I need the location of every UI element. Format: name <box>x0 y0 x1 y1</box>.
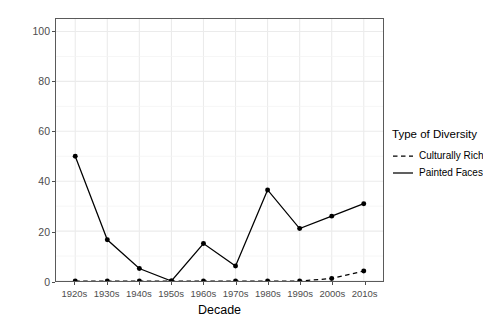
x-tick-mark <box>171 282 172 285</box>
data-point <box>233 264 238 269</box>
plot-panel <box>55 18 384 282</box>
data-point <box>265 187 270 192</box>
x-tick-label: 1920s <box>61 288 87 300</box>
legend-key-dashed <box>392 150 414 162</box>
x-tick-label: 2010s <box>352 288 378 300</box>
x-tick-mark <box>300 282 301 285</box>
x-tick-label: 1930s <box>94 288 120 300</box>
data-point <box>73 154 78 159</box>
data-point <box>137 266 142 271</box>
x-tick-mark <box>107 282 108 285</box>
y-tick-label: 20 <box>24 227 50 237</box>
data-point <box>233 279 238 281</box>
y-tick-mark <box>52 232 55 233</box>
data-point <box>329 276 334 281</box>
y-tick-label: 100 <box>24 26 50 36</box>
gridlines-minor <box>56 56 383 256</box>
y-tick-label: 80 <box>24 76 50 86</box>
x-tick-mark <box>268 282 269 285</box>
legend-item: Painted Faces <box>392 164 468 181</box>
legend-items: Culturally RichPainted Faces <box>392 147 468 181</box>
data-point <box>297 279 302 281</box>
x-tick-label: 2000s <box>319 288 345 300</box>
y-tick-mark <box>52 282 55 283</box>
legend-key-solid <box>392 167 414 179</box>
y-tick-label: 40 <box>24 176 50 186</box>
x-tick-mark <box>365 282 366 285</box>
data-point <box>105 279 110 281</box>
legend-title: Type of Diversity <box>392 128 468 140</box>
x-tick-label: 1980s <box>255 288 281 300</box>
data-series-layer <box>73 154 367 281</box>
data-point <box>73 279 78 281</box>
plot-area <box>56 19 383 281</box>
x-tick-mark <box>74 282 75 285</box>
x-axis-tick-labels: 1920s1930s1940s1950s1960s1970s1980s1990s… <box>0 286 468 302</box>
y-axis-title: Percentage of Books <box>2 0 20 54</box>
data-point <box>265 279 270 281</box>
legend-label: Culturally Rich <box>419 150 483 161</box>
data-point <box>361 269 366 274</box>
legend-label: Painted Faces <box>419 167 483 178</box>
data-point <box>329 214 334 219</box>
data-point <box>201 279 206 281</box>
legend: Type of Diversity Culturally RichPainted… <box>392 128 468 181</box>
x-tick-mark <box>203 282 204 285</box>
x-tick-mark <box>236 282 237 285</box>
y-axis-tick-labels: 020406080100 <box>20 0 50 332</box>
gridlines-major <box>56 19 383 281</box>
data-point <box>105 237 110 242</box>
series-painted-faces <box>73 154 367 281</box>
y-tick-mark <box>52 81 55 82</box>
x-tick-mark <box>139 282 140 285</box>
data-point <box>201 241 206 246</box>
data-point <box>361 201 366 206</box>
x-tick-label: 1950s <box>158 288 184 300</box>
data-point <box>297 226 302 231</box>
y-tick-mark <box>52 31 55 32</box>
y-tick-mark <box>52 181 55 182</box>
x-tick-label: 1940s <box>126 288 152 300</box>
legend-item: Culturally Rich <box>392 147 468 164</box>
x-tick-mark <box>332 282 333 285</box>
y-tick-mark <box>52 131 55 132</box>
x-axis-title: Decade <box>55 303 384 317</box>
x-tick-label: 1970s <box>223 288 249 300</box>
x-tick-label: 1990s <box>287 288 313 300</box>
series-culturally-rich <box>73 269 367 281</box>
x-tick-label: 1960s <box>190 288 216 300</box>
data-point <box>137 279 142 281</box>
y-tick-label: 60 <box>24 126 50 136</box>
